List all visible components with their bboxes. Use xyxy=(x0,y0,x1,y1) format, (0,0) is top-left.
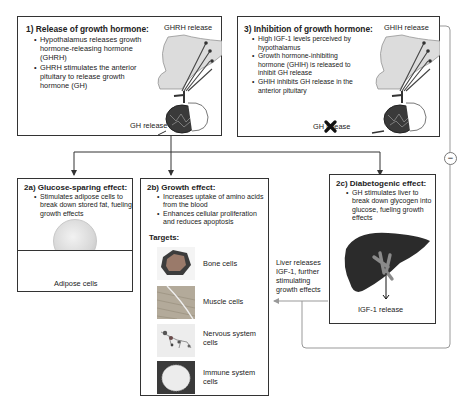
targets-heading: Targets: xyxy=(149,233,179,243)
box3-bullets: High IGF-1 levels perceived by hypothala… xyxy=(252,35,358,95)
box-diabetogenic: 2c) Diabetogenic effect: GH stimulates l… xyxy=(329,174,436,324)
box3-title: 3) Inhibition of growth hormone: xyxy=(244,24,373,34)
liver-igf1-note: Liver releases IGF-1, further stimulatin… xyxy=(276,258,332,294)
box2c-bullet: GH stimulates liver to break down glycog… xyxy=(346,189,434,223)
target-label-nervous: Nervous system cells xyxy=(203,329,265,347)
box2b-bullet: Increases uptake of amino acids from the… xyxy=(157,193,267,210)
box2b-bullets: Increases uptake of amino acids from the… xyxy=(157,193,267,227)
box1-title: 1) Release of growth hormone: xyxy=(26,24,149,34)
ghih-release-label: GHIH release xyxy=(384,23,429,32)
target-label-immune: Immune system cells xyxy=(203,368,265,386)
box-growth-effect: 2b) Growth effect: Increases uptake of a… xyxy=(140,178,269,396)
pituitary-illustration xyxy=(366,33,440,137)
box-glucose-sparing-frame xyxy=(17,178,133,292)
box3-bullet: Growth hormone-inhibiting hormone (GHIH)… xyxy=(252,52,358,78)
target-label-bone: Bone cells xyxy=(203,259,237,268)
muscle-cells-image xyxy=(157,286,195,319)
liver-illustration xyxy=(340,227,432,299)
box2c-title: 2c) Diabetogenic effect: xyxy=(336,179,426,189)
ghrh-release-label: GHRH release xyxy=(164,23,212,32)
inhibition-symbol: − xyxy=(444,152,457,165)
box2b-title: 2b) Growth effect: xyxy=(147,183,215,193)
blocked-x-icon xyxy=(324,120,337,133)
box3-bullet: High IGF-1 levels perceived by hypothala… xyxy=(252,35,358,52)
box1-bullet: Hypothalamus releases growth hormone-rel… xyxy=(34,35,146,63)
box1-bullets: Hypothalamus releases growth hormone-rel… xyxy=(34,35,146,90)
igf1-release-label: IGF-1 release xyxy=(358,305,403,314)
box-inhibition-growth-hormone: 3) Inhibition of growth hormone: High IG… xyxy=(237,16,440,137)
immune-system-cells-image xyxy=(157,361,195,394)
box3-bullet: GHIH inhibits GH release in the anterior… xyxy=(252,78,358,95)
nervous-system-cells-image xyxy=(157,324,195,357)
box-release-growth-hormone: 1) Release of growth hormone: Hypothalam… xyxy=(17,16,222,136)
box1-bullet: GHRH stimulates the anterior pituitary t… xyxy=(34,63,146,91)
box2b-bullet: Enhances cellular proliferation and redu… xyxy=(157,210,267,227)
target-label-muscle: Muscle cells xyxy=(203,297,243,306)
bone-cells-image xyxy=(157,247,195,280)
gh-release-label: GH release xyxy=(130,121,167,130)
box2c-bullets: GH stimulates liver to break down glycog… xyxy=(346,189,434,223)
